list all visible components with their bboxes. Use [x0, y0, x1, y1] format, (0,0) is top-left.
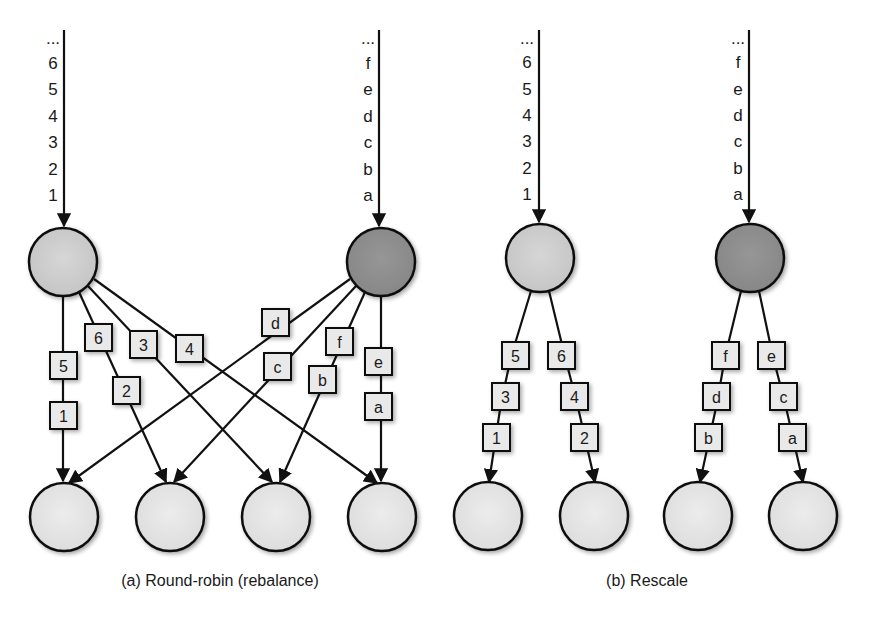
stream-item: e — [733, 80, 742, 99]
svg-text:6: 6 — [94, 330, 103, 347]
svg-text:b: b — [704, 430, 713, 447]
right-stream-labels: ... f e d c b a — [731, 29, 745, 204]
record-box: 5 — [502, 342, 529, 369]
stream-item: d — [733, 106, 742, 125]
svg-text:d: d — [712, 389, 721, 406]
stream-item: ... — [46, 29, 60, 48]
panel-b-rescale: ... 6 5 4 3 2 1 ... f e d c b a 5 3 — [454, 29, 837, 589]
svg-text:6: 6 — [557, 348, 566, 365]
record-box: c — [770, 383, 797, 410]
record-box: 1 — [483, 424, 510, 451]
source-right-node — [716, 224, 784, 292]
svg-text:1: 1 — [59, 408, 68, 425]
stream-item: 1 — [522, 185, 531, 204]
target-node-0 — [30, 483, 98, 551]
record-box: e — [758, 342, 785, 369]
svg-text:3: 3 — [501, 389, 510, 406]
svg-text:2: 2 — [122, 383, 131, 400]
record-box: f — [326, 328, 353, 355]
record-box: e — [365, 348, 392, 375]
stream-item: ... — [361, 29, 375, 48]
svg-text:4: 4 — [570, 389, 579, 406]
record-box: 6 — [85, 324, 112, 351]
stream-item: 6 — [48, 54, 57, 73]
svg-text:b: b — [318, 372, 327, 389]
panel-b-caption: (b) Rescale — [606, 572, 688, 589]
svg-text:e: e — [374, 354, 383, 371]
left-stream-labels: ... 6 5 4 3 2 1 — [520, 29, 534, 204]
record-box: d — [262, 309, 289, 336]
partitioning-diagram: ... 6 5 4 3 2 1 ... f e d c b a — [0, 0, 872, 617]
svg-text:c: c — [274, 359, 282, 376]
svg-text:e: e — [767, 348, 776, 365]
svg-text:5: 5 — [511, 348, 520, 365]
svg-text:f: f — [723, 348, 728, 365]
svg-text:f: f — [337, 334, 342, 351]
record-box: 4 — [561, 383, 588, 410]
stream-item: a — [363, 186, 373, 205]
stream-item: 5 — [48, 80, 57, 99]
panel-a-round-robin: ... 6 5 4 3 2 1 ... f e d c b a — [29, 29, 416, 589]
target-node-3 — [769, 482, 837, 550]
svg-text:c: c — [780, 389, 788, 406]
target-node-0 — [454, 482, 522, 550]
stream-item: c — [734, 132, 743, 151]
stream-item: 4 — [522, 106, 531, 125]
source-left-node — [29, 228, 97, 296]
stream-item: ... — [520, 29, 534, 48]
svg-text:5: 5 — [59, 358, 68, 375]
record-box: 4 — [176, 335, 203, 362]
target-node-1 — [560, 482, 628, 550]
svg-text:3: 3 — [139, 337, 148, 354]
stream-item: a — [733, 185, 743, 204]
stream-item: c — [364, 133, 373, 152]
record-box: a — [365, 393, 392, 420]
stream-item: e — [363, 80, 372, 99]
stream-item: 5 — [522, 80, 531, 99]
stream-item: b — [363, 160, 372, 179]
svg-text:4: 4 — [185, 341, 194, 358]
record-box: 5 — [50, 352, 77, 379]
panel-a-caption: (a) Round-robin (rebalance) — [121, 572, 318, 589]
stream-item: 3 — [522, 132, 531, 151]
record-box: 2 — [571, 424, 598, 451]
target-node-3 — [348, 483, 416, 551]
svg-text:1: 1 — [492, 430, 501, 447]
svg-text:d: d — [271, 315, 280, 332]
panel-b-records: 5 3 1 6 4 2 f d b e c a — [483, 342, 806, 451]
stream-item: ... — [731, 29, 745, 48]
record-box: 2 — [113, 377, 140, 404]
record-box: b — [695, 424, 722, 451]
right-stream-labels: ... f e d c b a — [361, 29, 375, 205]
stream-item: 2 — [48, 160, 57, 179]
svg-text:a: a — [374, 399, 383, 416]
stream-item: b — [733, 159, 742, 178]
record-box: 3 — [492, 383, 519, 410]
record-box: 3 — [130, 331, 157, 358]
svg-text:a: a — [788, 430, 797, 447]
target-node-2 — [664, 482, 732, 550]
stream-item: d — [363, 107, 372, 126]
source-left-node — [506, 224, 574, 292]
svg-text:2: 2 — [580, 430, 589, 447]
stream-item: 3 — [48, 133, 57, 152]
record-box: f — [712, 342, 739, 369]
panel-a-records: 5 1 6 2 3 4 d c f b e a — [50, 309, 392, 429]
record-box: c — [264, 353, 291, 380]
stream-item: f — [736, 53, 741, 72]
record-box: a — [779, 424, 806, 451]
stream-item: 6 — [522, 53, 531, 72]
target-node-2 — [242, 483, 310, 551]
stream-item: 1 — [48, 186, 57, 205]
record-box: 1 — [50, 402, 77, 429]
stream-item: 4 — [48, 107, 57, 126]
record-box: b — [309, 366, 336, 393]
panel-b-edges — [489, 291, 803, 482]
stream-item: 2 — [522, 159, 531, 178]
source-right-node — [347, 228, 415, 296]
target-node-1 — [136, 483, 204, 551]
stream-item: f — [366, 54, 371, 73]
record-box: 6 — [548, 342, 575, 369]
record-box: d — [703, 383, 730, 410]
left-stream-labels: ... 6 5 4 3 2 1 — [46, 29, 60, 205]
